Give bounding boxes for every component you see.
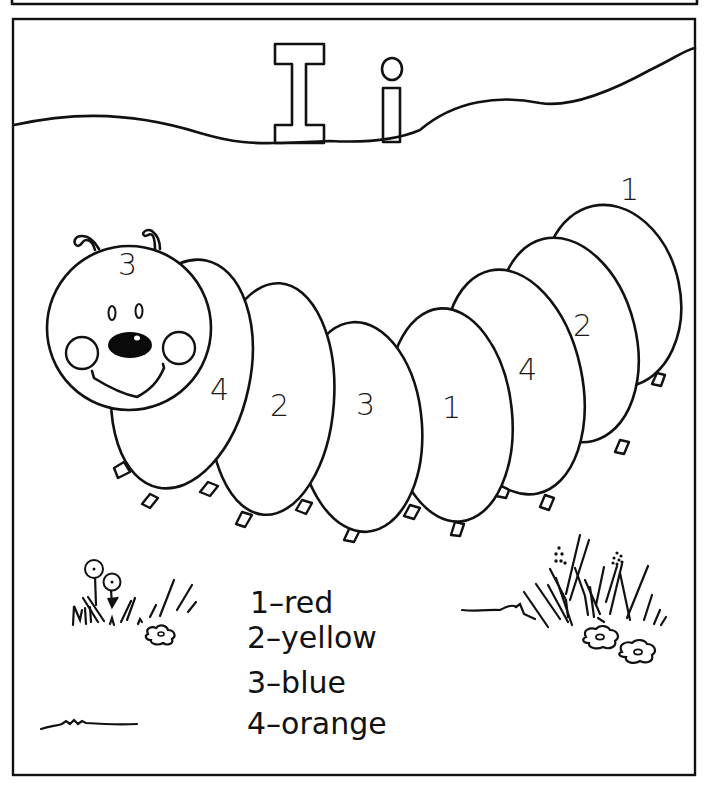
flower-icon (85, 560, 103, 578)
flower-icon (619, 640, 655, 663)
left-grass-flowers (73, 560, 196, 644)
right-cheek-icon (163, 332, 195, 364)
flower-icon (104, 574, 121, 591)
left-eye-icon (109, 306, 116, 320)
segment-number: 2 (270, 388, 289, 423)
right-grass-flowers (462, 535, 666, 663)
segment-number: 4 (518, 352, 537, 387)
legend-item-1: 1–red (250, 585, 333, 620)
right-eye-icon (136, 304, 143, 318)
top-frame (12, 0, 697, 4)
color-key: 1–red 2–yellow 3–blue 4–orange (247, 585, 387, 741)
flower-icon (146, 625, 175, 644)
segment-number: 1 (442, 390, 461, 425)
flower-icon (583, 626, 618, 648)
hill-line (14, 48, 695, 143)
caterpillar: 1 2 4 1 3 2 4 (47, 172, 698, 542)
left-cheek-icon (66, 337, 98, 369)
letter-lowercase-i: i (0, 0, 402, 142)
nose-icon (108, 332, 152, 358)
legend-item-4: 4–orange (247, 706, 387, 741)
segment-number: 2 (573, 308, 592, 343)
segment-number: 4 (210, 372, 229, 407)
caterpillar-head: 3 (47, 246, 211, 410)
dot-flower-icon (611, 551, 623, 565)
head-number: 3 (118, 247, 137, 282)
letter-uppercase-I: I (0, 0, 324, 143)
ground-squiggle (41, 720, 137, 729)
dot-flower-icon (554, 546, 566, 564)
segment-number: 1 (620, 172, 639, 207)
coloring-sheet: I i 1 2 (0, 0, 707, 785)
legend-item-2: 2–yellow (247, 620, 377, 655)
legend-item-3: 3–blue (247, 665, 346, 700)
segment-number: 3 (356, 387, 375, 422)
